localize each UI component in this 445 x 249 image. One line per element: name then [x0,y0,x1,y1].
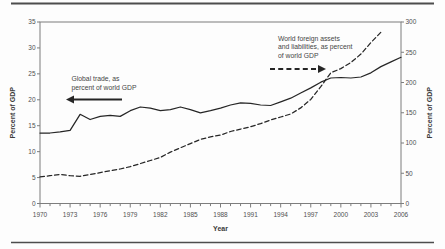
x-tick-label: 2003 [364,211,379,218]
annotation-text-line: percent of world GDP [72,84,137,92]
y-right-tick-label: 100 [406,139,417,146]
annotation-text-line: of world GDP [278,52,319,59]
x-tick-label: 1994 [273,211,288,218]
chart-svg: 1970197319761979198219851988199119941997… [0,0,445,249]
y-left-tick-label: 25 [28,70,36,77]
annotation-text-line: World foreign assets [278,35,340,43]
x-tick-label: 2000 [334,211,349,218]
y-left-tick-label: 20 [28,96,36,103]
y-left-tick-label: 5 [32,174,36,181]
annotation-text-line: Global trade, as [72,75,121,82]
y-axis-left-title: Percent of GDP [9,87,16,139]
x-tick-label: 1976 [93,211,108,218]
x-tick-label: 1997 [304,211,319,218]
figure-global-trade-and-foreign-assets: 1970197319761979198219851988199119941997… [0,0,445,249]
x-tick-label: 1970 [33,211,48,218]
x-tick-label: 1991 [243,211,258,218]
x-tick-label: 1988 [213,211,228,218]
x-tick-label: 1985 [183,211,198,218]
x-tick-label: 2006 [394,211,409,218]
annotation-text-line: and liabilities, as percent [278,43,353,51]
y-right-tick-label: 300 [406,18,417,25]
y-axis-right-title: Percent of GDP [426,87,433,139]
y-left-tick-label: 30 [28,44,36,51]
y-right-tick-label: 200 [406,79,417,86]
x-tick-label: 1973 [63,211,78,218]
y-left-tick-label: 0 [32,200,36,207]
y-left-tick-label: 35 [28,18,36,25]
y-right-tick-label: 150 [406,109,417,116]
x-tick-label: 1979 [123,211,138,218]
y-right-tick-label: 0 [406,200,410,207]
x-axis-title: Year [213,225,228,232]
x-tick-label: 1982 [153,211,168,218]
y-left-tick-label: 10 [28,148,36,155]
y-right-tick-label: 250 [406,49,417,56]
y-left-tick-label: 15 [28,122,36,129]
y-right-tick-label: 50 [406,170,414,177]
